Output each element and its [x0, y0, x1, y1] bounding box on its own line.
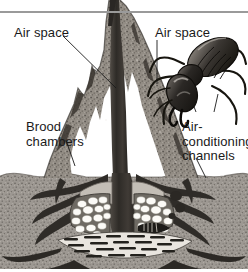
label-air-conditioning-channels: Air- conditioning channels [182, 120, 248, 164]
label-air-space-right: Air space [155, 26, 210, 41]
label-brood-chambers: Brood chambers [26, 120, 84, 149]
termite-mound-diagram: Air space Air space Brood chambers Air- … [0, 0, 248, 272]
top-rule [0, 11, 248, 13]
leader-line-air-conditioning-b [214, 94, 218, 112]
label-air-space-left: Air space [14, 26, 69, 41]
